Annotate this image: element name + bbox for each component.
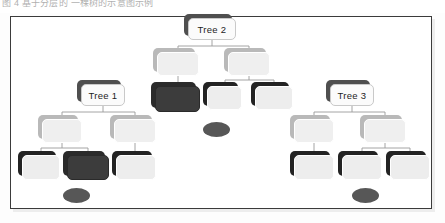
tree-node-n-l1[interactable] <box>157 52 199 76</box>
node-face <box>155 86 200 112</box>
node-label: Tree 3 <box>338 90 367 101</box>
node-face: Tree 2 <box>188 18 236 40</box>
node-face <box>207 86 242 110</box>
node-label: Tree 1 <box>89 90 118 101</box>
ellipse-marker-e-right <box>352 188 379 203</box>
node-face <box>116 155 156 180</box>
tree-node-n-c3[interactable] <box>207 86 242 110</box>
node-face <box>342 155 382 180</box>
tree-node-n-l3[interactable] <box>114 119 156 143</box>
node-face <box>114 119 156 143</box>
node-face <box>294 119 334 143</box>
tree-label-node-t3[interactable]: Tree 3 <box>330 84 374 106</box>
tree-node-n-b5[interactable] <box>342 155 382 180</box>
tree-node-n-r3[interactable] <box>364 119 406 143</box>
tree-node-n-b3[interactable] <box>116 155 156 180</box>
node-label: Tree 2 <box>198 24 227 35</box>
tree-node-n-b2[interactable] <box>67 155 109 180</box>
node-face <box>42 119 82 143</box>
ellipse-marker-e-center <box>203 122 230 137</box>
tree-node-n-c2[interactable] <box>155 86 200 112</box>
tree-node-n-r1[interactable] <box>228 52 270 76</box>
tree-node-n-b4[interactable] <box>294 155 334 180</box>
node-face <box>22 155 60 180</box>
node-face <box>294 155 334 180</box>
tree-node-n-l2[interactable] <box>42 119 82 143</box>
figure-root: 图 4 基于分层的 一棵树的示意图示例 Tree 2Tree 1Tree 3 <box>0 0 445 223</box>
tree-node-n-r2[interactable] <box>294 119 334 143</box>
node-face <box>364 119 406 143</box>
node-face <box>228 52 270 76</box>
tree-label-node-t2[interactable]: Tree 2 <box>188 18 236 40</box>
ellipse-marker-e-left <box>63 188 90 203</box>
tree-node-n-b6[interactable] <box>390 155 430 180</box>
node-face <box>157 52 199 76</box>
node-face <box>255 86 293 110</box>
node-face: Tree 1 <box>81 84 125 106</box>
tree-label-node-t1[interactable]: Tree 1 <box>81 84 125 106</box>
tree-node-n-c4[interactable] <box>255 86 293 110</box>
node-face: Tree 3 <box>330 84 374 106</box>
tree-node-n-b1[interactable] <box>22 155 60 180</box>
node-face <box>390 155 430 180</box>
node-face <box>67 155 109 180</box>
